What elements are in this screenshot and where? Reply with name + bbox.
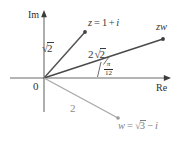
real-axis-label: Re — [156, 83, 167, 93]
radical-radicand: 2 — [47, 42, 54, 54]
vector-zw-magnitude-coefficient: 2 — [88, 48, 94, 60]
vector-z-label-real: 1 — [102, 17, 107, 28]
vector-z-magnitude-label: √2 — [42, 42, 54, 54]
imaginary-axis-arrowhead — [41, 10, 47, 17]
vector-z-label-plus: + — [109, 17, 115, 28]
vector-w-magnitude-label: 2 — [70, 103, 76, 114]
vector-w-label-name: w — [118, 120, 125, 131]
angle-leader-line — [98, 62, 102, 77]
radical-sqrt2: √2 — [42, 42, 54, 54]
angle-fraction: π 12 — [104, 61, 113, 77]
imaginary-axis-label: Im — [28, 10, 39, 20]
vector-w-label-imag: i — [155, 120, 158, 131]
vector-w-label-minus: − — [147, 120, 153, 131]
angle-pi-over-12-label: π 12 — [104, 60, 113, 77]
vector-w — [44, 78, 120, 120]
vector-zw-label: zw — [156, 22, 167, 33]
real-axis-arrowhead — [164, 75, 171, 81]
radical-sqrt2-zw: √2 — [95, 48, 107, 60]
vector-z-label-imag: i — [116, 17, 119, 28]
vector-zw-magnitude-label: 2√2 — [88, 48, 106, 60]
radical-sqrt3-w: √3 — [135, 120, 146, 132]
radical-radicand-w: 3 — [140, 120, 146, 132]
complex-plane-diagram: Im Re 0 z=1+i √2 2√2 zw π 12 2 w=√3−i — [0, 0, 186, 143]
vector-z-label: z=1+i — [88, 18, 119, 29]
vector-w-label: w=√3−i — [118, 120, 158, 132]
vector-z-endpoint-dot — [83, 30, 87, 34]
vector-z-label-equals: = — [94, 17, 100, 28]
radical-radicand-zw: 2 — [100, 48, 107, 60]
vector-w-label-equals: = — [127, 120, 133, 131]
origin-label: 0 — [33, 81, 39, 92]
angle-fraction-denominator: 12 — [104, 70, 113, 77]
vector-w-ray — [44, 78, 118, 118]
vector-z-label-name: z — [88, 17, 92, 28]
vector-zw-endpoint-dot — [161, 37, 165, 41]
imaginary-axis — [41, 10, 47, 112]
